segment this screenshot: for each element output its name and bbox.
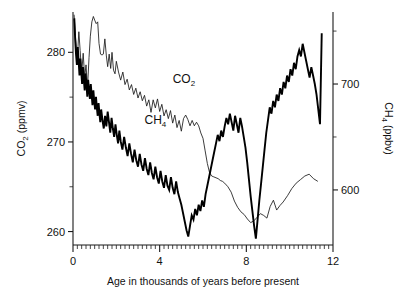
y-axis-title-left: CO2 (ppmv) — [15, 101, 30, 157]
right-tick-label: 700 — [341, 78, 359, 90]
x-tick-label: 12 — [327, 255, 339, 267]
paleoclimate-line-chart: 26027028060070004812 CO2CH4 Age in thous… — [0, 0, 403, 295]
chart-figure: 26027028060070004812 CO2CH4 Age in thous… — [0, 0, 403, 295]
y-axis-title-right: CH4 (ppbv) — [380, 102, 395, 154]
tick-marks-group — [68, 31, 338, 252]
x-tick-label: 0 — [70, 255, 76, 267]
right-tick-label: 600 — [341, 184, 359, 196]
left-tick-label: 280 — [47, 46, 65, 58]
x-tick-label: 8 — [243, 255, 249, 267]
left-tick-label: 260 — [47, 226, 65, 238]
x-axis-title: Age in thousands of years before present — [107, 275, 299, 287]
series-label-co2: CO2 — [173, 72, 196, 88]
data-curves-group — [74, 15, 322, 239]
x-tick-label: 4 — [157, 255, 163, 267]
curve-ch4 — [74, 18, 321, 238]
left-tick-label: 270 — [47, 136, 65, 148]
series-label-ch4: CH4 — [145, 113, 167, 129]
tick-labels-group: 26027028060070004812 — [47, 46, 360, 267]
